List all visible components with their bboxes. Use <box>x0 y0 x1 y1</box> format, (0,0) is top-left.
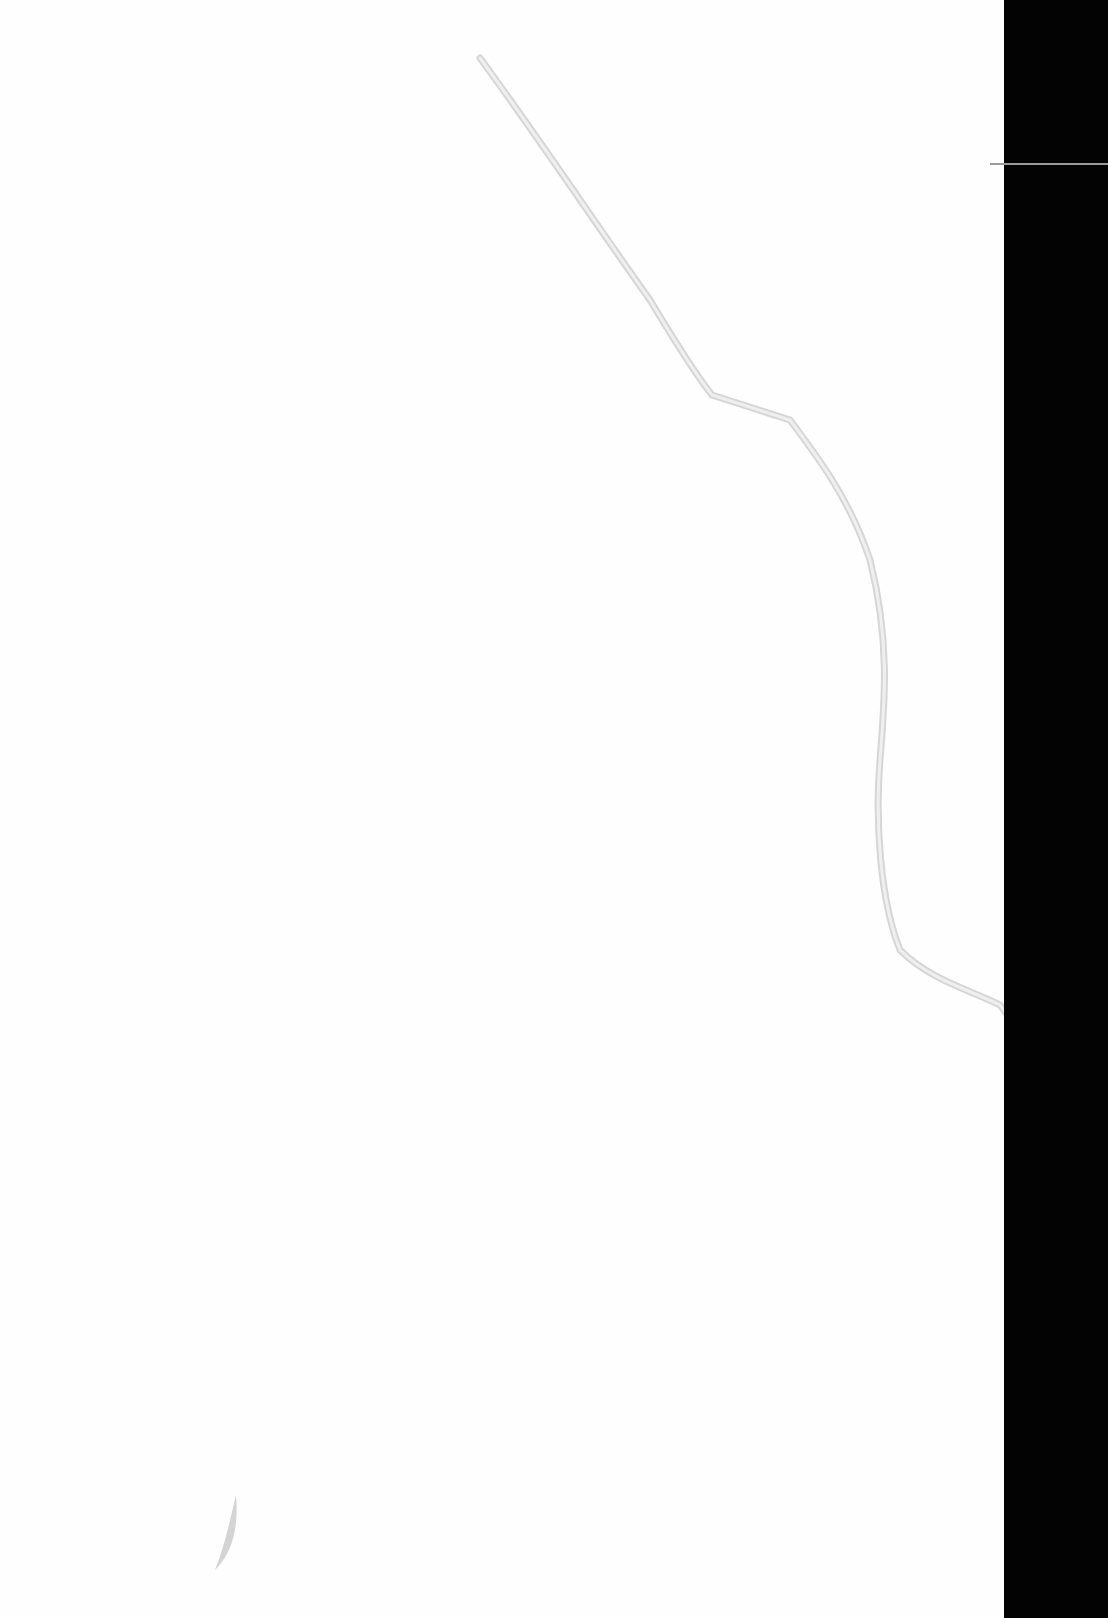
strip-line <box>990 163 1108 165</box>
scan-edge-strip <box>1004 0 1108 1618</box>
paper-crease <box>0 0 1108 1618</box>
smudge-mark <box>215 1495 237 1570</box>
scanned-page <box>0 0 1004 1618</box>
